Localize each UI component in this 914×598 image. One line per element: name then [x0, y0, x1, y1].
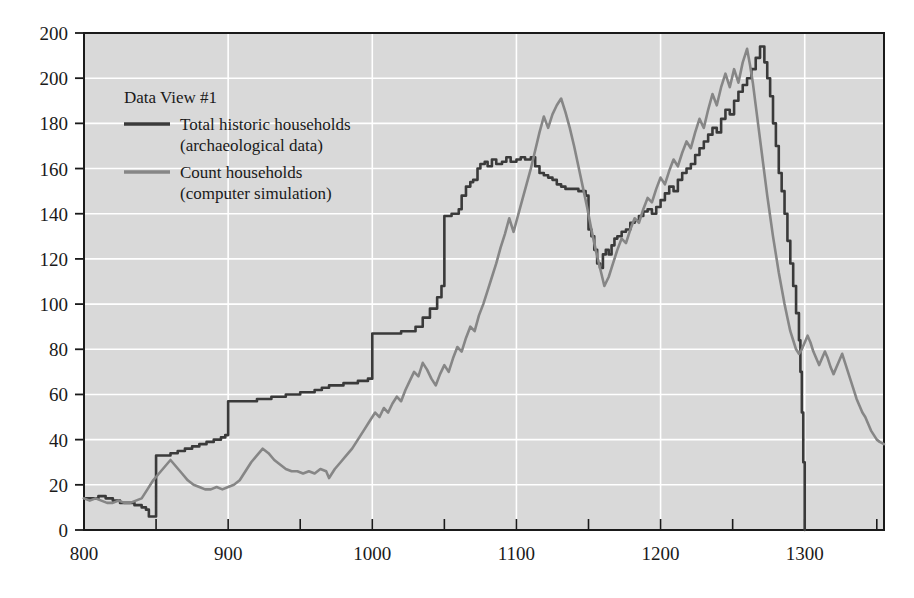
x-tick-label: 1200: [642, 543, 680, 564]
x-tick-label: 1300: [786, 543, 824, 564]
y-tick-label: 60: [49, 384, 68, 405]
y-tick-label: 20: [49, 475, 68, 496]
y-tick-label: 140: [40, 204, 69, 225]
population-line-chart: 200200180160140120100806040200 800900100…: [0, 0, 914, 598]
y-tick-label: 200: [40, 23, 69, 44]
legend-title: Data View #1: [124, 88, 217, 107]
y-tick-label: 200: [40, 68, 69, 89]
x-tick-label: 900: [214, 543, 243, 564]
x-tick-label: 800: [70, 543, 99, 564]
y-tick-label: 180: [40, 113, 69, 134]
legend-label-historic-line1: Total historic households: [180, 115, 351, 134]
x-tick-label: 1100: [498, 543, 535, 564]
y-tick-label: 80: [49, 339, 68, 360]
y-tick-label: 0: [59, 520, 69, 541]
legend-label-historic-line2: (archaeological data): [180, 136, 323, 155]
y-tick-label: 160: [40, 159, 69, 180]
y-tick-label: 120: [40, 249, 69, 270]
legend-label-simulation-line1: Count households: [180, 163, 302, 182]
plot-background: [84, 33, 884, 530]
y-tick-label: 40: [49, 430, 68, 451]
x-tick-label: 1000: [353, 543, 391, 564]
y-tick-label: 100: [40, 294, 69, 315]
legend-label-simulation-line2: (computer simulation): [180, 184, 332, 203]
chart-figure: 200200180160140120100806040200 800900100…: [0, 0, 914, 598]
